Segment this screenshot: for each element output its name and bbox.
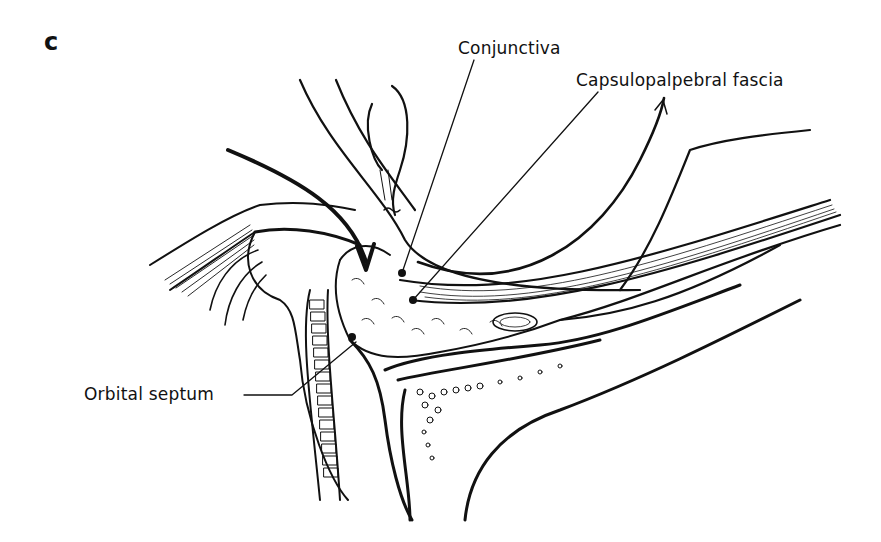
muscle-fibers (420, 205, 836, 300)
anatomy-drawing (0, 0, 881, 542)
eyelashes (210, 250, 266, 325)
leader-dots (348, 269, 417, 341)
fat-texture (352, 278, 502, 334)
orbital-floor (350, 285, 800, 520)
conjunctival-fornix (300, 80, 640, 290)
bone-texture (417, 364, 562, 460)
upper-fat-pad (560, 130, 810, 320)
globe-outline (418, 98, 667, 274)
lower-lid-retractors (400, 200, 840, 320)
